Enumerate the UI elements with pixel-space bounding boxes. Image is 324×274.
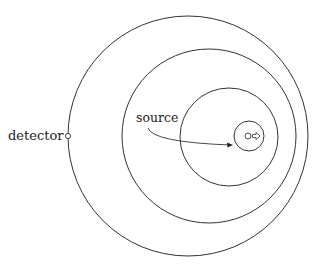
source-pointer-arrow (148, 128, 230, 145)
right-arrow-icon (253, 133, 261, 140)
source-marker (245, 133, 260, 140)
wavefront-third (180, 88, 278, 186)
source-label: source (136, 110, 178, 125)
arrowhead-icon (227, 143, 233, 148)
detector-marker (65, 133, 70, 138)
source-circle-icon (245, 133, 251, 139)
detector-circle-icon (65, 133, 70, 138)
wavefront-second (122, 49, 296, 223)
detector-label: detector (8, 128, 64, 143)
doppler-wavefront-diagram: detector source (0, 0, 324, 274)
